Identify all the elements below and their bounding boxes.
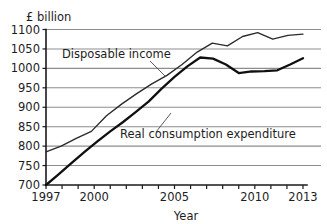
leader-line-disposable-income xyxy=(150,61,166,77)
chart-canvas: £ billion 700750800850900950100010501100… xyxy=(0,0,327,224)
y-axis-tick-label: 800 xyxy=(18,139,40,153)
series-label-real-consumption-expenditure: Real consumption expenditure xyxy=(120,127,296,141)
x-axis-tick-label: 1997 xyxy=(31,190,60,204)
y-axis-tick-label: 1050 xyxy=(11,42,40,56)
line-chart: £ billion 700750800850900950100010501100… xyxy=(0,0,327,224)
x-axis-tick-label: 2005 xyxy=(160,190,189,204)
y-axis-tick-label: 1000 xyxy=(11,61,40,75)
x-axis-tick-label: 2010 xyxy=(240,190,269,204)
y-axis-tick-label: 900 xyxy=(18,100,40,114)
series-label-disposable-income: Disposable income xyxy=(62,47,171,61)
y-axis-tick-label: 1100 xyxy=(11,23,40,37)
x-axis-tick-label: 2000 xyxy=(80,190,109,204)
x-axis-title: Year xyxy=(173,209,199,223)
y-axis-tick-labels: 700750800850900950100010501100 xyxy=(11,23,40,193)
y-axis-tick-label: 950 xyxy=(18,81,40,95)
x-axis-tick-labels: 19972000200520102013 xyxy=(31,190,317,204)
x-axis-tick-label: 2013 xyxy=(288,190,317,204)
y-axis-tick-label: 850 xyxy=(18,120,40,134)
y-axis-tick-label: 750 xyxy=(18,159,40,173)
